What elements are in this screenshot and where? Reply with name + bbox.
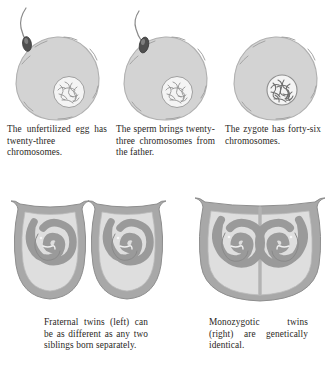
sperm-icon xyxy=(135,11,150,54)
womb-panel-row xyxy=(0,182,331,317)
caption-unfertilized-egg: The unfertilized egg has twenty-three ch… xyxy=(7,124,107,159)
uterus-sac-left xyxy=(11,201,89,299)
egg-nucleus xyxy=(162,77,193,108)
sperm-tail xyxy=(21,8,26,41)
egg-cell-icon xyxy=(2,0,112,122)
egg-panel-fertilizing xyxy=(110,0,220,122)
nucleus-membrane xyxy=(162,77,193,108)
uterus-twins-icon xyxy=(195,182,325,317)
egg-panel-zygote xyxy=(220,0,330,122)
fetus-eye xyxy=(228,236,231,239)
uterus-sac-right xyxy=(88,201,166,299)
fetus-eye xyxy=(290,236,293,239)
caption-zygote: The zygote has forty-six chromosomes. xyxy=(225,124,321,147)
egg-nucleus xyxy=(54,77,85,108)
fetus-eye xyxy=(40,237,43,240)
egg-panel-row xyxy=(0,0,331,122)
fetus-eye xyxy=(117,237,120,240)
sperm-tail xyxy=(135,11,141,40)
egg-cell-icon xyxy=(110,0,220,122)
womb-panel-monozygotic xyxy=(195,182,325,317)
egg-panel-unfertilized xyxy=(2,0,112,122)
uterus-twins-icon xyxy=(8,182,168,317)
nucleus-membrane xyxy=(54,77,85,108)
womb-panel-fraternal xyxy=(8,182,168,317)
caption-fraternal-twins: Fraternal twins (left) can be as differe… xyxy=(44,317,148,352)
egg-nucleus xyxy=(267,75,297,105)
sperm-icon xyxy=(21,8,33,52)
caption-monozygotic-twins: Monozygotic twins (right) are geneticall… xyxy=(209,317,308,352)
nucleus-membrane xyxy=(267,75,297,105)
egg-cell-icon xyxy=(220,0,330,122)
caption-sperm-brings: The sperm brings twenty-three chromosome… xyxy=(116,124,215,159)
fertilization-twinning-figure: The unfertilized egg has twenty-three ch… xyxy=(0,0,331,372)
